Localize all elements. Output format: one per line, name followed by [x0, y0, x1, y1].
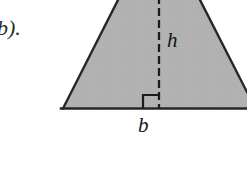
part-label: b). [0, 17, 21, 39]
base-label: b [138, 115, 149, 136]
triangle-diagram-svg [0, 0, 247, 170]
height-label: h [167, 30, 178, 51]
figure-canvas: b). h b [0, 0, 247, 170]
